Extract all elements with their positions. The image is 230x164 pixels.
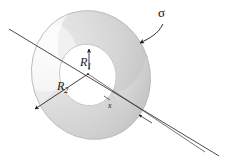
disk-center-dot — [87, 73, 89, 75]
outer-radius-label-sub: 2 — [64, 86, 68, 95]
inner-radius-label-sub: 1 — [87, 62, 91, 71]
x-measure-arrow — [139, 115, 152, 123]
sigma-label: σ — [158, 5, 165, 20]
annular-disk-group — [0, 0, 173, 164]
figure-canvas: σ R1 R2 x — [0, 0, 230, 164]
annular-disk-figure: σ R1 R2 x — [0, 0, 230, 164]
axis-distance-label: x — [107, 101, 112, 110]
